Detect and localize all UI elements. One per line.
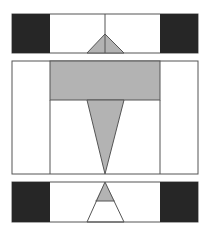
middle-panel [12,61,198,174]
bottom-left-dark-square [12,182,50,222]
top-panel [12,14,198,53]
top-right-dark-square [160,14,198,53]
bottom-panel [12,182,198,222]
middle-gray-rectangle [50,61,160,100]
diagram-canvas [0,0,208,233]
top-left-dark-square [12,14,50,53]
bottom-right-dark-square [160,182,198,222]
